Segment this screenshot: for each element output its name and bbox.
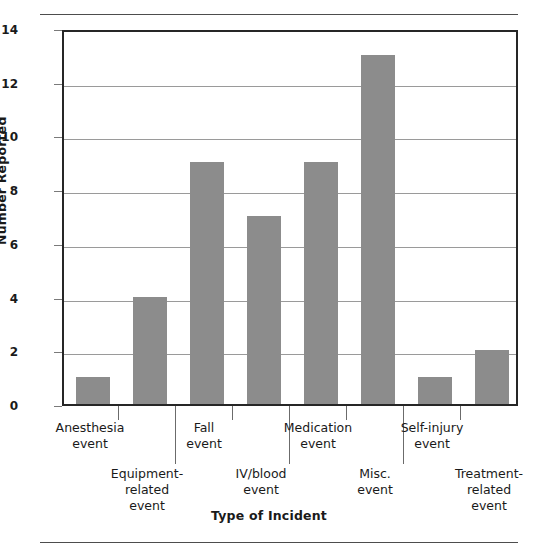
bar-misc-event xyxy=(361,55,395,404)
y-tick-label-10: 10 xyxy=(0,130,18,144)
x-label-line: event xyxy=(377,436,487,452)
x-label-line: Self-injury xyxy=(377,420,487,436)
x-label-self-injury: Self-injury event xyxy=(377,420,487,452)
x-label-line: event xyxy=(206,482,316,498)
y-tick-mark-8 xyxy=(54,191,62,192)
x-label-anesthesia: Anesthesia event xyxy=(35,420,145,452)
x-label-line: event xyxy=(35,436,145,452)
x-label-line: Equipment- xyxy=(92,466,202,482)
y-tick-mark-0 xyxy=(54,406,62,407)
x-label-iv-blood: IV/blood event xyxy=(206,466,316,498)
bar-fall-event xyxy=(190,162,224,404)
x-label-line: Anesthesia xyxy=(35,420,145,436)
y-tick-mark-10 xyxy=(54,137,62,138)
y-tick-label-2: 2 xyxy=(0,345,18,359)
y-tick-label-8: 8 xyxy=(0,184,18,198)
x-label-line: event xyxy=(320,482,430,498)
y-tick-label-6: 6 xyxy=(0,238,18,252)
y-tick-label-12: 12 xyxy=(0,77,18,91)
x-label-line: Medication xyxy=(263,420,373,436)
y-tick-label-14: 14 xyxy=(0,23,18,37)
x-label-equipment-related: Equipment- related event xyxy=(92,466,202,514)
x-label-line: related xyxy=(92,482,202,498)
bar-series xyxy=(64,32,516,404)
x-label-line: Treatment- xyxy=(434,466,538,482)
x-label-line: related xyxy=(434,482,538,498)
bar-treatment-related-event xyxy=(475,350,509,404)
y-tick-mark-4 xyxy=(54,299,62,300)
x-label-medication: Medication event xyxy=(263,420,373,452)
x-label-misc: Misc. event xyxy=(320,466,430,498)
top-divider-rule xyxy=(40,14,518,15)
bar-iv-blood-event xyxy=(247,216,281,404)
x-separator-1 xyxy=(118,406,119,420)
x-label-line: Misc. xyxy=(320,466,430,482)
y-tick-label-4: 4 xyxy=(0,292,18,306)
y-tick-mark-2 xyxy=(54,352,62,353)
x-label-fall: Fall event xyxy=(149,420,259,452)
bar-equipment-related-event xyxy=(133,297,167,404)
x-label-line: event xyxy=(263,436,373,452)
x-separator-5 xyxy=(346,406,347,420)
x-label-line: IV/blood xyxy=(206,466,316,482)
x-label-line: Fall xyxy=(149,420,259,436)
x-separator-7 xyxy=(460,406,461,420)
bottom-divider-rule xyxy=(40,542,518,543)
bar-self-injury-event xyxy=(418,377,452,404)
y-tick-mark-14 xyxy=(54,30,62,31)
x-label-line: event xyxy=(149,436,259,452)
bar-anesthesia-event xyxy=(76,377,110,404)
y-tick-mark-12 xyxy=(54,84,62,85)
bar-medication-event xyxy=(304,162,338,404)
x-axis-title: Type of Incident xyxy=(0,508,538,523)
y-tick-label-0: 0 xyxy=(0,399,18,413)
x-separator-3 xyxy=(232,406,233,420)
plot-area xyxy=(62,30,518,406)
y-tick-mark-6 xyxy=(54,245,62,246)
x-label-treatment-related: Treatment- related event xyxy=(434,466,538,514)
figure-container: Number Reported 0 2 4 6 8 10 12 14 Anest… xyxy=(0,0,538,552)
